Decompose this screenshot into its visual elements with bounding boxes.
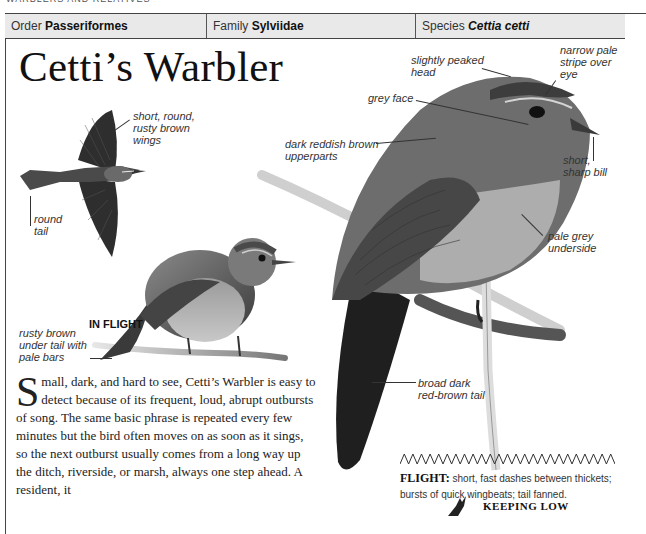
perched-bird-illustration bbox=[95, 238, 296, 360]
leader-bill bbox=[593, 137, 594, 161]
body-text: Small, dark, and hard to see, Cetti’s Wa… bbox=[16, 373, 316, 499]
bird-silhouette-icon bbox=[446, 496, 470, 516]
body-paragraph: mall, dark, and hard to see, Cetti’s War… bbox=[16, 374, 316, 497]
label-under-tail: rusty brown under tail with pale bars bbox=[19, 327, 89, 363]
label-eye-stripe: narrow pale stripe over eye bbox=[560, 44, 620, 80]
leader-under-tail bbox=[90, 358, 112, 359]
label-bill: short, sharp bill bbox=[563, 154, 618, 178]
label-grey-face: grey face bbox=[368, 92, 428, 104]
label-upperparts: dark reddish brown upperparts bbox=[285, 138, 385, 162]
leader-round-tail bbox=[30, 196, 31, 226]
label-wings: short, round, rusty brown wings bbox=[133, 110, 213, 146]
in-flight-caption: IN FLIGHT bbox=[89, 318, 143, 330]
label-underside: pale grey underside bbox=[548, 230, 613, 254]
keeping-low-heading: KEEPING LOW bbox=[483, 500, 569, 512]
dropcap: S bbox=[16, 375, 39, 409]
leader-tail bbox=[372, 382, 416, 383]
label-round-tail: round tail bbox=[34, 213, 74, 237]
zigzag-flight-pattern-icon bbox=[400, 452, 615, 466]
flight-description: FLIGHT: short, fast dashes between thick… bbox=[400, 470, 615, 503]
label-peaked-head: slightly peaked head bbox=[411, 54, 491, 78]
label-tail: broad dark red-brown tail bbox=[418, 377, 488, 401]
flight-heading: FLIGHT: bbox=[400, 471, 450, 485]
